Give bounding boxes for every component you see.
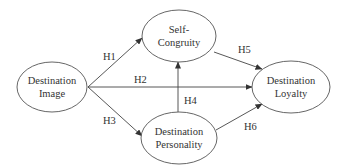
node-label-line1: Destination	[267, 75, 316, 86]
edge-label-h2: H2	[134, 74, 147, 85]
edge-label-h5: H5	[238, 44, 251, 55]
edge-label-h3: H3	[103, 115, 116, 126]
edge-label-h4: H4	[184, 95, 198, 106]
node-label-line2: Personality	[155, 139, 203, 150]
edge-label-h6: H6	[244, 121, 257, 132]
edge-h3	[88, 87, 142, 136]
node-label-line1: Self-	[169, 24, 190, 35]
node-label-line2: Loyalty	[275, 88, 308, 99]
node-label-line2: Image	[39, 88, 66, 99]
node-label-line2: Congruity	[158, 37, 201, 48]
node-self-congruity: Self- Congruity	[142, 10, 216, 62]
edge-label-h1: H1	[103, 51, 116, 62]
node-destination-image: Destination Image	[17, 62, 87, 112]
path-diagram: H1 H2 H3 H4 H5 H6 Destination Image Self…	[0, 0, 341, 168]
node-destination-loyalty: Destination Loyalty	[252, 61, 330, 113]
node-label-line1: Destination	[155, 126, 204, 137]
node-destination-personality: Destination Personality	[141, 112, 217, 164]
node-label-line1: Destination	[28, 75, 77, 86]
